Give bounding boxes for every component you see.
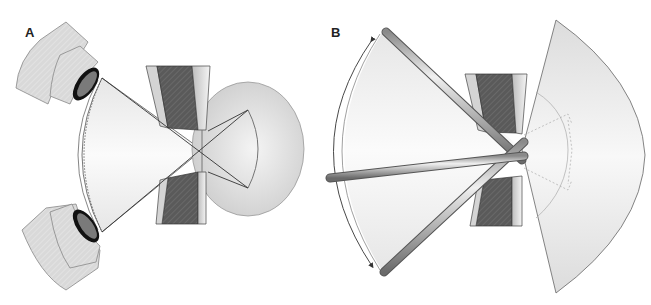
swept-fan [344, 30, 523, 272]
diagram-figure: A [0, 0, 651, 305]
sector-detector [522, 20, 645, 293]
scatter-sphere [192, 82, 304, 216]
pole-piece-bottom [156, 172, 206, 224]
panel-label-a: A [25, 25, 35, 40]
panel-a: A [16, 22, 304, 290]
panel-label-b: B [331, 25, 340, 40]
panel-b: B [330, 20, 645, 293]
